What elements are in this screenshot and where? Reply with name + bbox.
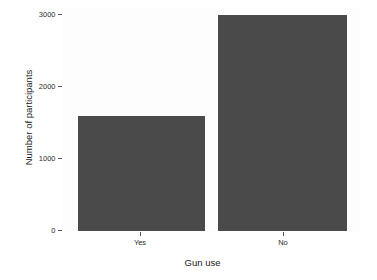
tick-mark-icon [140, 232, 141, 236]
tick-mark-icon [58, 86, 62, 87]
x-axis-title: Gun use [0, 257, 377, 268]
y-tick-label: 2000 [39, 81, 56, 93]
bar-chart: 3000 2000 1000 0 Number of participants … [0, 0, 377, 280]
y-tick-label: 0 [51, 225, 55, 237]
y-tick-2000: 2000 [39, 81, 62, 93]
x-tick-label: Yes [134, 238, 146, 247]
tick-mark-icon [283, 232, 284, 236]
tick-mark-icon [58, 14, 62, 15]
plot-panel [62, 8, 360, 231]
x-tick-no: No [253, 232, 313, 247]
y-axis-title-wrap: Number of participants [14, 0, 36, 240]
y-tick-1000: 1000 [39, 153, 62, 165]
x-tick-yes: Yes [110, 232, 170, 247]
y-tick-label: 3000 [39, 9, 56, 21]
x-tick-label: No [278, 238, 288, 247]
bar-yes [78, 116, 205, 231]
y-tick-3000: 3000 [39, 9, 62, 21]
bars-layer [62, 8, 360, 231]
tick-mark-icon [58, 230, 62, 231]
y-axis-title: Number of participants [23, 38, 34, 198]
bar-no [218, 15, 347, 231]
y-tick-label: 1000 [39, 153, 56, 165]
y-tick-0: 0 [51, 225, 62, 237]
tick-mark-icon [58, 158, 62, 159]
